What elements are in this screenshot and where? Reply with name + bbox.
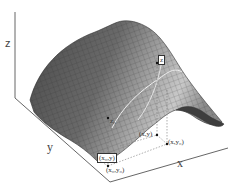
point-x-y0-label: (x,y₀) [168,138,184,146]
point-x0-y-label: (x₀,y) [97,153,117,163]
surface-plot [0,0,239,194]
surface-point-z0-label: z₀ [110,117,116,125]
point-xy-label: (x,y) [139,130,152,138]
y-axis-label: y [47,140,53,155]
point-x0-y0-label: (x₀,y₀) [106,166,124,174]
surface [30,21,224,162]
z-axis-label: z [5,37,11,49]
x-axis-label: x [177,156,183,171]
surface-point-z-label: z [158,55,165,65]
surface-diagram: z y x z z₀ (x,y) (x,y₀) (x₀,y) (x₀,y₀) [0,0,239,194]
x-axis [110,148,228,182]
